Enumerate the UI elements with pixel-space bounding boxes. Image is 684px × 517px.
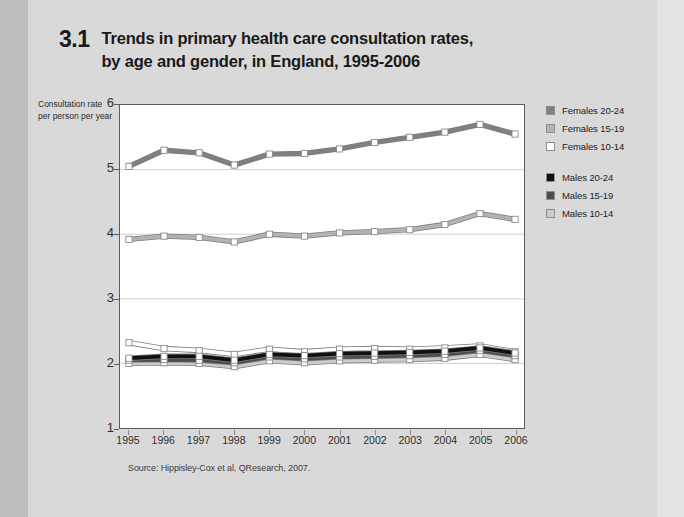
y-axis-tick-mark [114, 234, 119, 235]
series-marker [266, 151, 272, 157]
legend-swatch-icon [546, 124, 555, 133]
series-marker [196, 234, 202, 240]
legend-item-label: Females 15-19 [562, 123, 624, 134]
series-marker [161, 353, 167, 359]
x-axis-tick-mark [375, 430, 376, 435]
y-axis-tick-mark [114, 429, 119, 430]
series-marker [126, 163, 132, 169]
x-axis-tick-mark [340, 430, 341, 435]
legend-item-label: Females 20-24 [562, 105, 624, 116]
x-axis-tick-mark [445, 430, 446, 435]
series-marker [231, 239, 237, 245]
legend-swatch-icon [546, 142, 555, 151]
series-marker [442, 221, 448, 227]
series-marker [477, 210, 483, 216]
x-axis-tick-mark [234, 430, 235, 435]
y-axis-tick-label: 4 [96, 225, 114, 240]
x-axis-tick-label: 2006 [495, 434, 537, 446]
series-marker [196, 353, 202, 359]
y-axis-tick-label: 2 [96, 355, 114, 370]
series-marker [231, 351, 237, 357]
legend-item[interactable]: Males 10-14 [546, 206, 656, 221]
figure-title-block: 3.1 Trends in primary health care consul… [59, 27, 519, 73]
legend-item[interactable]: Females 10-14 [546, 139, 656, 154]
series-marker [442, 129, 448, 135]
x-axis-tick-mark [269, 430, 270, 435]
series-marker [407, 134, 413, 140]
legend-item-label: Males 20-24 [562, 172, 613, 183]
legend-item-label: Females 10-14 [562, 141, 624, 152]
title-line-2: by age and gender, in England, 1995-2006 [101, 50, 473, 73]
series-marker [231, 162, 237, 168]
y-axis-tick-mark [114, 169, 119, 170]
x-axis-tick-mark [481, 430, 482, 435]
series-marker [301, 150, 307, 156]
series-marker [372, 229, 378, 235]
legend-group-males: Males 20-24Males 15-19Males 10-14 [546, 170, 656, 221]
title-line-1: Trends in primary health care consultati… [101, 27, 473, 50]
series-marker [512, 216, 518, 222]
y-axis-tick-label: 6 [96, 95, 114, 110]
series-marker [336, 351, 342, 357]
legend-swatch-icon [546, 173, 555, 182]
x-axis-tick-mark [128, 430, 129, 435]
right-margin-strip [657, 0, 684, 517]
legend-item-label: Males 10-14 [562, 208, 613, 219]
series-marker [477, 345, 483, 351]
series-marker [336, 230, 342, 236]
legend-swatch-icon [546, 106, 555, 115]
series-marker [336, 146, 342, 152]
page-canvas: 3.1 Trends in primary health care consul… [0, 0, 684, 517]
series-marker [266, 351, 272, 357]
series-marker [442, 348, 448, 354]
series-marker [301, 233, 307, 239]
series-marker [407, 349, 413, 355]
series-marker [196, 150, 202, 156]
x-axis-tick-mark [410, 430, 411, 435]
line-chart-svg [120, 105, 524, 428]
legend-item[interactable]: Males 20-24 [546, 170, 656, 185]
y-axis-tick-label: 3 [96, 290, 114, 305]
series-marker [301, 353, 307, 359]
source-note: Source: Hippisley-Cox et al, QResearch, … [128, 463, 310, 473]
series-marker [477, 121, 483, 127]
y-axis-title-line-2: per person per year [38, 111, 112, 121]
series-marker [407, 227, 413, 233]
series-marker [266, 231, 272, 237]
series-marker [512, 131, 518, 137]
legend-item[interactable]: Males 15-19 [546, 188, 656, 203]
legend-swatch-icon [546, 191, 555, 200]
series-marker [126, 355, 132, 361]
chart-legend: Females 20-24Females 15-19Females 10-14M… [546, 103, 656, 237]
legend-group-females: Females 20-24Females 15-19Females 10-14 [546, 103, 656, 154]
x-axis-tick-mark [199, 430, 200, 435]
y-axis-tick-mark [114, 104, 119, 105]
series-marker [512, 350, 518, 356]
series-line [129, 214, 515, 242]
series-marker [231, 357, 237, 363]
series-marker [196, 347, 202, 353]
series-marker [161, 233, 167, 239]
series-marker [161, 147, 167, 153]
x-axis-tick-mark [304, 430, 305, 435]
left-margin-strip [0, 0, 28, 517]
series-marker [161, 345, 167, 351]
series-marker [126, 340, 132, 346]
chart-plot-area [119, 104, 525, 429]
legend-swatch-icon [546, 209, 555, 218]
legend-item[interactable]: Females 20-24 [546, 103, 656, 118]
y-axis-tick-label: 5 [96, 160, 114, 175]
y-axis-title-line-1: Consultation rate [38, 99, 102, 109]
series-line [129, 124, 515, 166]
y-axis-tick-mark [114, 364, 119, 365]
legend-item-label: Males 15-19 [562, 190, 613, 201]
x-axis-tick-mark [163, 430, 164, 435]
chart-series-females-20-24 [126, 121, 518, 169]
page-title: Trends in primary health care consultati… [101, 27, 473, 73]
chart-series-females-15-19 [126, 210, 518, 245]
legend-item[interactable]: Females 15-19 [546, 121, 656, 136]
figure-number: 3.1 [59, 27, 89, 52]
y-axis-tick-label: 1 [96, 420, 114, 435]
series-marker [126, 236, 132, 242]
x-axis-tick-mark [516, 430, 517, 435]
